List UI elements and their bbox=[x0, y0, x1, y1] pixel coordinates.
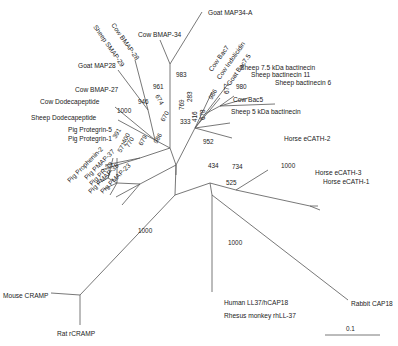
taxon-label: Rabbit CAP18 bbox=[351, 300, 393, 307]
bootstrap-value: 416 bbox=[191, 111, 198, 122]
bootstrap-value: 1000 bbox=[228, 239, 243, 246]
bootstrap-value: 678 bbox=[199, 109, 206, 120]
bootstrap-value: 525 bbox=[226, 179, 237, 186]
bootstrap-value: 434 bbox=[208, 162, 219, 169]
taxon-label: Sheep Dodecapeptide bbox=[31, 114, 97, 122]
taxon-label: Horse eCATH-2 bbox=[284, 135, 331, 142]
bootstrap-value: 769 bbox=[178, 99, 185, 110]
bootstrap-value: 734 bbox=[232, 163, 243, 170]
bootstrap-value: 677 bbox=[223, 83, 230, 94]
taxon-label: Sheep bactinecin 11 bbox=[251, 71, 311, 79]
taxon-labels: Goat MAP34-A Cow BMAP-34 Cow BMAP-28 She… bbox=[3, 9, 393, 337]
bootstrap-value: 952 bbox=[203, 138, 214, 145]
bootstrap-value: 946 bbox=[138, 98, 149, 105]
bootstrap-value: 980 bbox=[236, 83, 247, 90]
bootstrap-value: 1000 bbox=[117, 107, 132, 114]
scale-bar-label: 0.1 bbox=[346, 325, 355, 332]
phylogenetic-tree: Goat MAP34-A Cow BMAP-34 Cow BMAP-28 She… bbox=[0, 0, 398, 346]
bootstrap-value: 983 bbox=[176, 71, 187, 78]
taxon-label: Cow BMAP-27 bbox=[75, 86, 119, 93]
taxon-label: Rhesus monkey rhLL-37 bbox=[224, 312, 296, 320]
taxon-label: Rat rCRAMP bbox=[57, 330, 96, 337]
bootstrap-value: 1000 bbox=[281, 162, 296, 169]
bootstrap-value: 283 bbox=[186, 91, 193, 102]
taxon-label: Sheep bactinecin 6 bbox=[275, 79, 331, 87]
taxon-label: Mouse CRAMP bbox=[3, 292, 49, 299]
taxon-label: Cow Dodecapeptide bbox=[40, 98, 100, 106]
taxon-label: Horse eCATH-3 bbox=[315, 169, 362, 176]
taxon-label: Goat MAP28 bbox=[78, 62, 116, 69]
taxon-label: Pig Protegrin-5 bbox=[68, 126, 112, 134]
taxon-label: Cow Bac5 bbox=[233, 96, 263, 103]
bootstrap-value: 1000 bbox=[138, 227, 153, 234]
bootstrap-value: 670 bbox=[159, 109, 171, 122]
taxon-label: Pig Protegrin-1 bbox=[68, 135, 112, 143]
taxon-label: Goat MAP34-A bbox=[208, 9, 253, 16]
taxon-label: Cow BMAP-34 bbox=[138, 31, 182, 38]
bootstrap-value: 674 bbox=[154, 93, 166, 106]
taxon-label: Human LL37/hCAP18 bbox=[224, 299, 288, 306]
bootstrap-value: 333 bbox=[180, 118, 191, 125]
taxon-label: Horse eCATH-1 bbox=[323, 178, 370, 185]
bootstrap-value: 961 bbox=[153, 83, 164, 90]
taxon-label: Sheep 5 kDa bactinecin bbox=[231, 108, 301, 116]
